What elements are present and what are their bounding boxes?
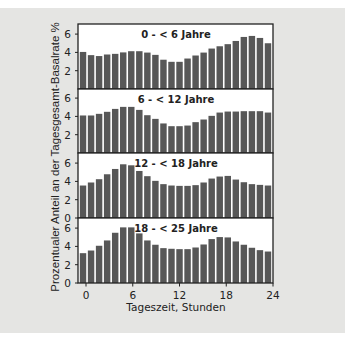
y-tick-label: 2 (64, 65, 71, 77)
bar (257, 250, 263, 283)
bar (88, 183, 94, 219)
bar (225, 176, 231, 218)
bar (136, 51, 142, 89)
bar (233, 180, 239, 218)
y-axis-label: Prozentualer Anteil an der Tagesgesamt-B… (49, 22, 61, 292)
y-tick-label: 0 (64, 277, 71, 289)
bar (136, 171, 142, 218)
panel-title: 0 - < 6 Jahre (141, 29, 211, 40)
bar (168, 186, 174, 218)
bar (80, 52, 86, 89)
bar (168, 126, 174, 153)
bar (144, 115, 150, 153)
bar (241, 111, 247, 153)
bar (136, 233, 142, 283)
bar (257, 38, 263, 89)
bar (265, 113, 271, 153)
chart-panel: 2466 - < 12 Jahre (64, 89, 273, 153)
bar (160, 184, 166, 218)
y-tick-label: 6 (64, 222, 71, 234)
bar (80, 186, 86, 218)
bar (233, 112, 239, 153)
bar (233, 41, 239, 89)
y-tick-label: 2 (64, 194, 71, 206)
y-tick-label: 6 (64, 92, 71, 104)
chart-panel: 024618 - < 25 Jahre (64, 218, 273, 289)
y-tick-label: 4 (64, 175, 71, 187)
bar (241, 37, 247, 89)
bar (136, 110, 142, 153)
x-axis-label: Tageszeit, Stunden (125, 301, 225, 313)
bar (160, 123, 166, 153)
y-tick-label: 4 (64, 110, 71, 122)
bar (217, 177, 223, 218)
bar (128, 51, 134, 89)
bar (184, 126, 190, 153)
bar (208, 239, 214, 283)
bar (88, 251, 94, 283)
chart-panel: 2460 - < 6 Jahre (64, 24, 273, 89)
y-tick-label: 4 (64, 46, 71, 58)
bar (192, 185, 198, 218)
bar (257, 111, 263, 153)
bar (152, 181, 158, 218)
bar (208, 49, 214, 89)
bar (249, 111, 255, 153)
bar (249, 36, 255, 89)
bar (160, 60, 166, 89)
bar (200, 183, 206, 219)
bar (128, 227, 134, 283)
bar (152, 119, 158, 153)
bar (168, 62, 174, 89)
y-tick-label: 6 (64, 157, 71, 169)
x-tick-label: 6 (129, 289, 136, 301)
y-tick-label: 4 (64, 240, 71, 252)
bar (112, 233, 118, 283)
bar (184, 186, 190, 218)
x-tick-label: 0 (83, 289, 90, 301)
bar (112, 109, 118, 153)
y-tick-label: 2 (64, 259, 71, 271)
bar (200, 244, 206, 283)
bar (96, 114, 102, 153)
bar (184, 249, 190, 283)
bar (152, 245, 158, 283)
bar (176, 249, 182, 283)
bar (192, 56, 198, 89)
bar (96, 246, 102, 283)
bar (217, 113, 223, 153)
bar (120, 227, 126, 283)
panel-title: 18 - < 25 Jahre (134, 223, 218, 234)
bar (144, 240, 150, 283)
bar (200, 120, 206, 153)
bar (225, 44, 231, 89)
bar (265, 186, 271, 218)
bar (144, 53, 150, 89)
bar (120, 107, 126, 153)
bar (257, 185, 263, 218)
bar (104, 240, 110, 283)
bar (233, 241, 239, 283)
x-tick-label: 24 (266, 289, 280, 301)
bar (96, 179, 102, 218)
panel-title: 12 - < 18 Jahre (134, 158, 218, 169)
bar (144, 176, 150, 218)
bar (176, 62, 182, 89)
bar (249, 184, 255, 218)
bar (104, 174, 110, 218)
bar (192, 122, 198, 153)
bar (112, 169, 118, 218)
bar (265, 252, 271, 283)
bar (249, 248, 255, 283)
bar (184, 59, 190, 89)
bar (217, 46, 223, 89)
bar (160, 248, 166, 283)
bar (96, 56, 102, 89)
bar (241, 182, 247, 218)
bar (208, 179, 214, 218)
bar (104, 55, 110, 90)
basal-rate-chart: 2460 - < 6 Jahre2466 - < 12 Jahre024612 … (0, 0, 356, 342)
bar (80, 115, 86, 153)
x-tick-label: 12 (173, 289, 186, 301)
bar (225, 112, 231, 153)
